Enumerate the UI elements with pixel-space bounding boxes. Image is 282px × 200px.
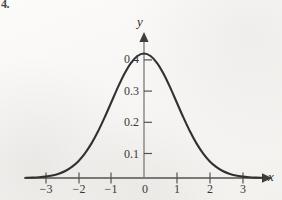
y-tick-label-0.3: 0.3 bbox=[124, 84, 139, 99]
x-tick-label--3: −3 bbox=[40, 182, 53, 197]
y-axis-label: y bbox=[137, 14, 143, 30]
x-axis-label: x bbox=[268, 169, 274, 185]
y-tick-label-0.1: 0.1 bbox=[124, 147, 139, 162]
x-tick-label-0: 0 bbox=[142, 182, 148, 197]
y-axis-ticks bbox=[144, 60, 152, 154]
x-tick-label--1: −1 bbox=[105, 182, 118, 197]
x-tick-label--2: −2 bbox=[73, 182, 86, 197]
figure-canvas: 4. y x 0.4 0.3 0.2 bbox=[0, 0, 282, 200]
x-tick-label-3: 3 bbox=[240, 182, 246, 197]
x-tick-label-2: 2 bbox=[207, 182, 213, 197]
y-axis-arrowhead bbox=[139, 32, 148, 42]
normal-distribution-plot bbox=[0, 0, 282, 200]
y-tick-label-0.4: 0.4 bbox=[124, 52, 139, 67]
x-tick-label-1: 1 bbox=[174, 182, 180, 197]
y-tick-label-0.2: 0.2 bbox=[124, 115, 139, 130]
